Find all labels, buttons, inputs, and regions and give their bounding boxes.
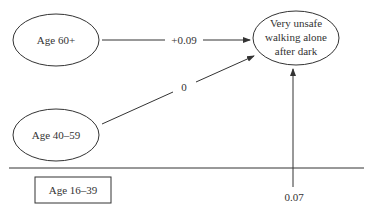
edge-age60-label: +0.09 [171, 34, 197, 46]
edge-baseline-to-outcome: 0.07 [284, 69, 304, 203]
node-outcome-line-1: Very unsafe [270, 17, 322, 29]
edge-baseline-label: 0.07 [284, 191, 304, 203]
node-age-40-59: Age 40–59 [13, 109, 99, 161]
node-age-40-59-label: Age 40–59 [32, 129, 81, 141]
edge-age40-to-outcome: 0 [102, 56, 254, 124]
node-age-16-39: Age 16–39 [35, 177, 111, 203]
node-age-16-39-label: Age 16–39 [49, 184, 98, 196]
edge-age60-to-outcome: +0.09 [102, 34, 250, 46]
node-outcome: Very unsafe walking alone after dark [253, 11, 339, 65]
path-diagram: Age 60+ Very unsafe walking alone after … [0, 0, 371, 216]
node-outcome-line-2: walking alone [265, 31, 327, 43]
node-outcome-line-3: after dark [275, 45, 318, 57]
node-age-60-plus: Age 60+ [13, 14, 99, 66]
node-age-60-plus-label: Age 60+ [37, 34, 75, 46]
edge-age40-label: 0 [181, 81, 187, 93]
